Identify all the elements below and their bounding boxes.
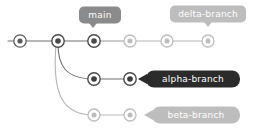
commit-node-core [127,76,133,82]
commit-node-core [92,113,97,118]
commit-node-c0[interactable] [14,35,26,47]
commit-node-b2[interactable] [124,109,136,121]
branch-label-alpha-pointer [138,74,147,84]
commit-node-core [206,39,211,44]
commit-node-c3[interactable] [124,35,136,47]
commit-node-c4[interactable] [161,35,173,47]
commit-node-core [165,39,170,44]
git-graph-canvas: main delta-branch alpha-branch beta-bran… [0,0,253,131]
branch-label-main-pointer [89,23,97,28]
commit-node-c2[interactable] [88,35,100,47]
branch-label-main-text: main [88,10,111,20]
edge-fork-alpha [58,44,94,79]
commit-node-b1[interactable] [88,109,100,121]
commit-node-core [128,39,133,44]
branch-label-alpha-text: alpha-branch [162,74,224,84]
commit-node-core [128,113,133,118]
branch-label-delta[interactable]: delta-branch [170,6,246,28]
commit-node-core [91,76,97,82]
branch-label-delta-pointer [204,22,212,27]
branch-label-beta[interactable]: beta-branch [144,107,240,124]
branch-label-beta-pointer [144,110,153,120]
git-branch-diagram: main delta-branch alpha-branch beta-bran… [0,0,253,131]
branch-label-delta-text: delta-branch [178,9,238,19]
branch-label-alpha[interactable]: alpha-branch [138,71,240,88]
commit-node-core [91,38,97,44]
commit-node-c5[interactable] [202,35,214,47]
commit-node-core [17,38,22,43]
branch-label-beta-text: beta-branch [167,110,224,120]
branch-label-main[interactable]: main [79,7,121,29]
commit-node-c1[interactable] [52,35,64,47]
commit-node-a1[interactable] [88,73,100,85]
commit-node-core [55,38,61,44]
commit-node-a2[interactable] [124,73,136,85]
